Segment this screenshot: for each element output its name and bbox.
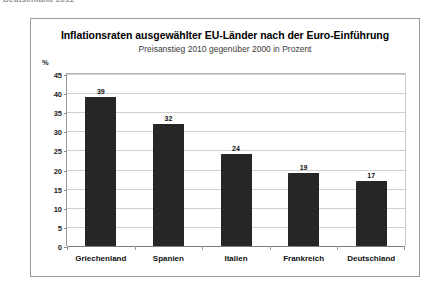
y-axis-tick-mark — [64, 94, 67, 95]
scan-header-text: Deutschland 2011 — [3, 0, 123, 5]
bar-value-label: 17 — [367, 172, 375, 179]
y-axis-tick-mark — [64, 113, 67, 114]
bar-value-label: 32 — [164, 115, 172, 122]
x-axis-tick-mark — [67, 246, 68, 250]
gridline: 30 — [67, 131, 405, 132]
bar: 17Deutschland — [356, 181, 387, 246]
x-axis-baseline: 0 — [67, 246, 405, 247]
x-axis-tick-mark — [135, 246, 136, 250]
gridline: 35 — [67, 112, 405, 113]
bar: 32Spanien — [153, 124, 184, 246]
bar-value-label: 19 — [300, 164, 308, 171]
y-axis-tick-label: 5 — [58, 223, 62, 232]
x-axis-tick-mark — [270, 246, 271, 250]
plot-area: 05101520253035404539Griechenland32Spanie… — [66, 73, 406, 246]
y-axis-tick-mark — [64, 228, 67, 229]
y-axis-tick-mark — [64, 75, 67, 76]
y-axis-tick-mark — [64, 190, 67, 191]
y-axis-tick-label: 35 — [54, 109, 62, 118]
x-axis-category-label: Italien — [224, 254, 247, 263]
y-axis-tick-label: 10 — [54, 204, 62, 213]
y-axis-tick-label: 0 — [58, 243, 62, 252]
x-axis-category-label: Frankreich — [283, 254, 324, 263]
chart-title: Inflationsraten ausgewählter EU-Länder n… — [31, 29, 419, 41]
bar-value-label: 39 — [97, 88, 105, 95]
y-axis-tick-label: 45 — [54, 71, 62, 80]
y-axis-tick-label: 15 — [54, 185, 62, 194]
y-axis-tick-mark — [64, 171, 67, 172]
y-axis-tick-label: 30 — [54, 128, 62, 137]
y-axis-tick-label: 20 — [54, 166, 62, 175]
chart-page: Deutschland 2011 Inflationsraten ausgewä… — [0, 0, 436, 292]
bar: 39Griechenland — [85, 97, 116, 246]
gridline: 40 — [67, 93, 405, 94]
y-axis-tick-label: 40 — [54, 90, 62, 99]
x-axis-tick-mark — [202, 246, 203, 250]
bar-value-label: 24 — [232, 145, 240, 152]
y-axis-tick-mark — [64, 209, 67, 210]
chart-frame: Inflationsraten ausgewählter EU-Länder n… — [30, 18, 420, 277]
y-axis-tick-mark — [64, 151, 67, 152]
x-axis-tick-mark — [337, 246, 338, 250]
x-axis-category-label: Spanien — [153, 254, 184, 263]
bar: 19Frankreich — [288, 173, 319, 246]
x-axis-category-label: Deutschland — [347, 254, 395, 263]
bar: 24Italien — [221, 154, 252, 246]
gridline: 45 — [67, 74, 405, 75]
y-axis-unit-label: % — [42, 58, 49, 67]
x-axis-category-label: Griechenland — [75, 254, 126, 263]
y-axis-tick-label: 25 — [54, 147, 62, 156]
chart-subtitle: Preisanstieg 2010 gegenüber 2000 in Proz… — [31, 44, 419, 54]
y-axis-tick-mark — [64, 132, 67, 133]
x-axis-tick-mark — [404, 246, 405, 250]
